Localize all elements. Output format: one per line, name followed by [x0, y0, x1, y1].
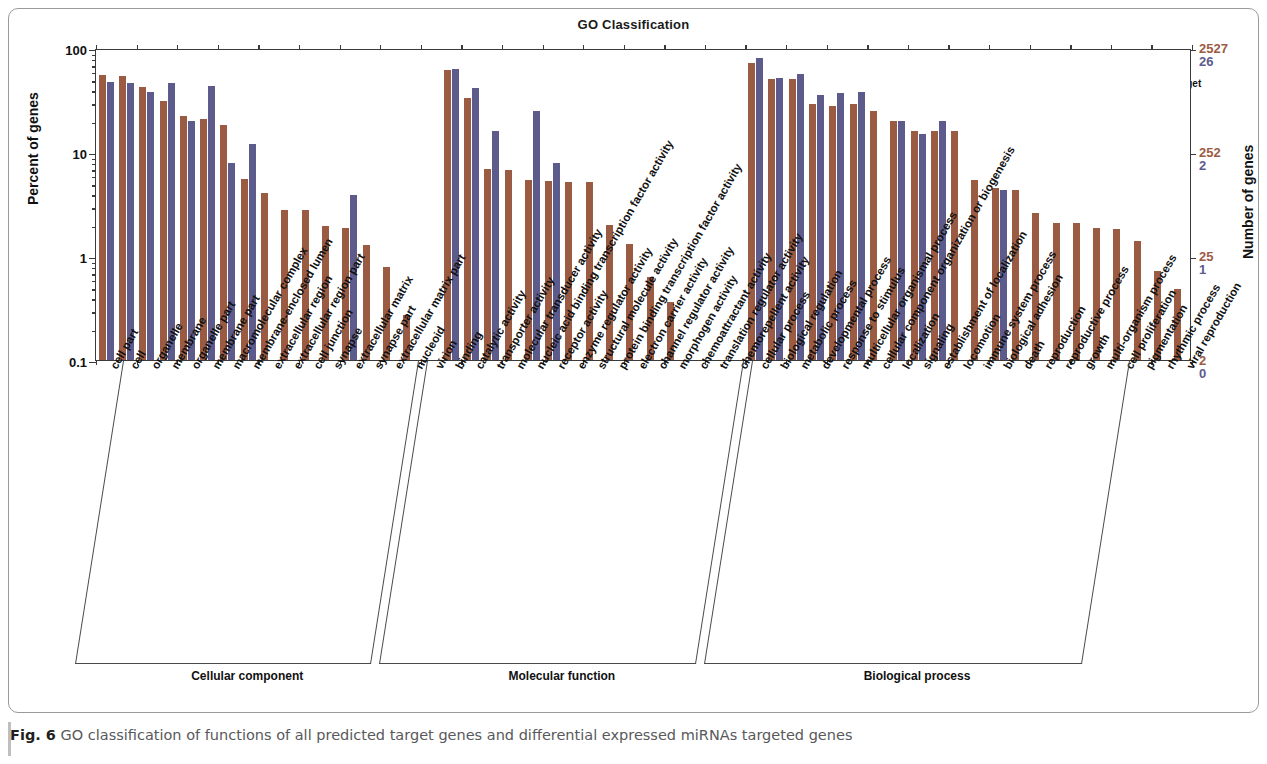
figure-frame: GO Classification Percent of genes Numbe…	[8, 8, 1259, 713]
x-axis-tick-top	[137, 45, 138, 50]
x-axis-tick-top	[177, 45, 178, 50]
y-axis-tick	[89, 154, 96, 155]
y-axis-minor-tick	[92, 91, 96, 92]
x-axis-tick-top	[258, 45, 259, 50]
y-axis-minor-tick	[92, 331, 96, 332]
bar-group	[99, 50, 119, 360]
right-axis-tick-label-all: 252	[1199, 146, 1221, 159]
x-axis-tick-top	[380, 45, 381, 50]
bar-all-target	[160, 101, 167, 360]
x-axis-tick-top	[867, 45, 868, 50]
y-axis-minor-tick	[92, 66, 96, 67]
y-axis-minor-tick	[92, 170, 96, 171]
right-axis-tick-label-de: 0	[1199, 367, 1206, 380]
y-axis-minor-tick	[92, 312, 96, 313]
figure-caption: Fig. 6 GO classification of functions of…	[10, 727, 1250, 743]
y-axis-minor-tick	[92, 185, 96, 186]
x-axis-tick-top	[908, 45, 909, 50]
y-axis-minor-tick	[92, 81, 96, 82]
x-axis-tick-top	[1192, 45, 1193, 50]
y-axis-minor-tick	[92, 227, 96, 228]
x-axis-tick-top	[1151, 45, 1152, 50]
bar-all-target	[484, 169, 491, 360]
bar-all-target	[99, 75, 106, 360]
bar-de-mirna-target	[168, 83, 175, 360]
caption-label: Fig. 6	[10, 727, 56, 743]
y-axis-tick	[89, 362, 96, 363]
x-axis-tick-top	[948, 45, 949, 50]
group-bracket	[379, 361, 744, 664]
right-axis-tick-label-all: 25	[1199, 250, 1213, 263]
x-axis-tick-top	[745, 45, 746, 50]
y-axis-minor-tick	[92, 104, 96, 105]
x-axis-tick-top	[583, 45, 584, 50]
y-axis-minor-tick	[92, 299, 96, 300]
right-axis-title: Number of genes	[1240, 145, 1256, 259]
x-axis-tick-top	[1030, 45, 1031, 50]
group-bracket	[75, 361, 419, 664]
x-axis-tick-top	[827, 45, 828, 50]
x-axis-tick-top	[299, 45, 300, 50]
x-axis-tick-top	[543, 45, 544, 50]
x-axis-tick-top	[502, 45, 503, 50]
x-axis-tick-top	[705, 45, 706, 50]
y-axis-minor-tick	[92, 274, 96, 275]
y-axis-minor-tick	[92, 289, 96, 290]
y-axis-minor-tick	[92, 268, 96, 269]
y-axis-tick	[89, 258, 96, 259]
y-axis-tick-label: 10	[73, 147, 87, 162]
y-axis-tick-label: 100	[65, 43, 87, 58]
x-axis-tick-top	[421, 45, 422, 50]
bar-group	[444, 50, 464, 360]
x-axis-tick-top	[989, 45, 990, 50]
bar-group	[180, 50, 200, 360]
bar-de-mirna-target	[472, 88, 479, 360]
group-bracket	[704, 361, 1130, 664]
y-axis-minor-tick	[92, 73, 96, 74]
bar-de-mirna-target	[107, 82, 114, 360]
y-axis-title: Percent of genes	[25, 92, 41, 205]
y-axis-minor-tick	[92, 177, 96, 178]
right-axis-tick-label-all: 2527	[1199, 42, 1228, 55]
x-axis-tick-top	[664, 45, 665, 50]
bar-group	[464, 50, 484, 360]
right-axis-tick	[1190, 258, 1196, 259]
x-axis-tick-top	[1111, 45, 1112, 50]
bar-de-mirna-target	[452, 69, 459, 360]
bar-group	[160, 50, 180, 360]
right-axis-tick	[1190, 154, 1196, 155]
y-axis-minor-tick	[92, 263, 96, 264]
bar-group	[119, 50, 139, 360]
y-axis-minor-tick	[92, 55, 96, 56]
x-axis-tick-top	[624, 45, 625, 50]
bar-de-mirna-target	[127, 83, 134, 360]
y-axis-minor-tick	[92, 208, 96, 209]
bar-group	[1053, 50, 1073, 360]
y-axis-tick	[89, 50, 96, 51]
bar-de-mirna-target	[837, 93, 844, 360]
x-axis-tick-top	[340, 45, 341, 50]
y-axis-tick-label: 1	[80, 251, 87, 266]
bar-group	[139, 50, 159, 360]
bar-all-target	[444, 70, 451, 360]
bar-all-target	[464, 98, 471, 360]
chart-title: GO Classification	[9, 17, 1258, 32]
y-axis-minor-tick	[92, 195, 96, 196]
right-axis-tick-label-de: 1	[1199, 263, 1213, 276]
y-axis-minor-tick	[92, 123, 96, 124]
group-label: Biological process	[684, 669, 1150, 683]
right-axis-tick	[1190, 50, 1196, 51]
right-axis-tick-label-de: 26	[1199, 55, 1228, 68]
bar-group	[363, 50, 383, 360]
right-axis-tick-label-de: 2	[1199, 159, 1221, 172]
bar-group	[1113, 50, 1133, 360]
x-axis-tick-top	[96, 45, 97, 50]
y-axis-minor-tick	[92, 281, 96, 282]
caption-text: GO classification of functions of all pr…	[61, 727, 853, 743]
y-axis-tick-label: 0.1	[69, 355, 87, 370]
y-axis-minor-tick	[92, 164, 96, 165]
x-axis-tick-top	[218, 45, 219, 50]
x-axis-tick-top	[1070, 45, 1071, 50]
x-axis-tick-top	[461, 45, 462, 50]
right-axis-tick-label: 252726	[1199, 42, 1228, 69]
